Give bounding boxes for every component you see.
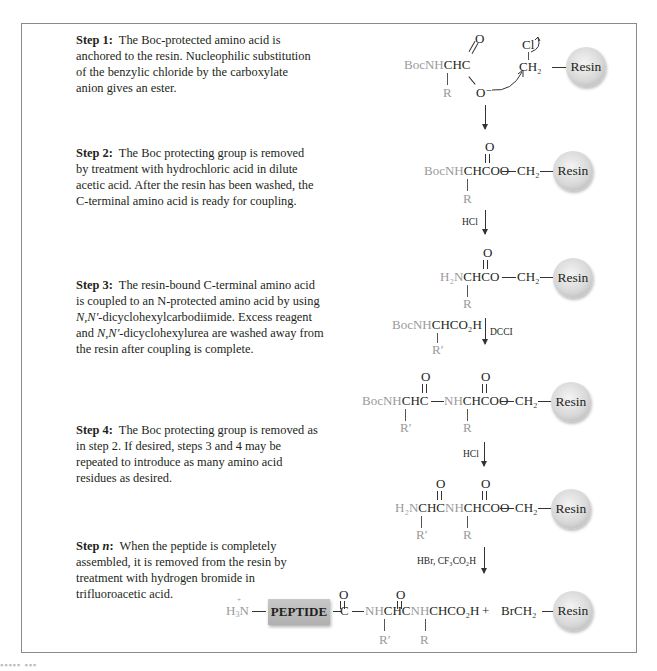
double-bond xyxy=(397,601,402,609)
r-prime-group: R′ xyxy=(400,421,412,435)
step-n-text: Step n: When the peptide is completely a… xyxy=(76,538,316,602)
bond xyxy=(500,401,514,402)
figure-caption-fragment: ▪▪▪▪▪ ▪▪▪ xyxy=(0,660,37,670)
bond xyxy=(538,401,552,402)
ch2: CH₂ xyxy=(515,394,538,408)
reaction-arrow-icon xyxy=(484,547,485,573)
resin-bead: Resin xyxy=(566,47,606,87)
carbonyl-o: O xyxy=(339,588,348,602)
r-group: R xyxy=(463,528,472,542)
ch2: CH₂ xyxy=(519,60,542,74)
carbonyl-o: O xyxy=(483,246,492,260)
resin-bead: Resin xyxy=(553,591,593,631)
ch2: CH₂ xyxy=(517,270,540,284)
second-residue: NHCHCOO xyxy=(444,394,508,408)
double-bond xyxy=(437,491,442,500)
step-4-text: Step 4: The Boc protecting group is remo… xyxy=(76,422,326,486)
ammonium-terminus: H3N xyxy=(226,604,249,618)
reagent-hbr-tfa: HBr, CF₃CO₂H xyxy=(417,556,476,566)
step-2-text: Step 2: The Boc protecting group is remo… xyxy=(76,145,316,209)
resin-bead: Resin xyxy=(551,382,591,422)
r-group: R xyxy=(420,633,429,647)
bond xyxy=(538,508,552,509)
bond xyxy=(447,73,448,85)
reaction-arrow-icon xyxy=(485,105,486,129)
r-prime-group: R′ xyxy=(416,528,428,542)
carbonyl-o: O xyxy=(485,140,494,154)
bond xyxy=(252,611,266,612)
boc-aa-formula: BocNHCHCO₂H xyxy=(392,318,482,332)
double-bond xyxy=(482,384,487,393)
bond xyxy=(540,171,554,172)
ch2: CH₂ xyxy=(515,501,538,515)
double-bond xyxy=(482,491,487,500)
bond xyxy=(467,179,468,191)
r-group: R xyxy=(463,297,472,311)
r-group: R xyxy=(463,192,472,206)
bond xyxy=(431,401,444,402)
double-bond xyxy=(485,154,490,163)
bond xyxy=(425,619,426,631)
bond xyxy=(502,277,516,278)
step-1-text: Step 1: The Boc-protected amino acid is … xyxy=(76,32,316,96)
bond xyxy=(384,619,385,631)
carbonyl-o: O xyxy=(481,477,490,491)
peptide-box: PEPTIDE xyxy=(268,599,330,625)
reagent-dcci: DCCI xyxy=(490,327,513,337)
double-bond xyxy=(422,384,427,393)
boc-nh-chc: BocNHCHC xyxy=(404,58,470,72)
ester-chain: BocNHCHCOO xyxy=(424,164,509,178)
reaction-arrow-icon xyxy=(485,318,486,344)
carbonyl-o: O xyxy=(421,370,430,384)
plus-sign: + xyxy=(482,604,489,618)
reagent-hcl-2: HCl xyxy=(463,449,479,459)
r-prime-group: R′ xyxy=(432,343,444,357)
r-group: R xyxy=(443,86,452,100)
r-prime-group: R′ xyxy=(379,633,391,647)
ch2: CH₂ xyxy=(517,164,540,178)
bond xyxy=(502,171,516,172)
r-group: R xyxy=(463,421,472,435)
boc-dipeptide-chain: BocNHCHC xyxy=(362,394,428,408)
resin-bead: Resin xyxy=(553,258,593,298)
bond xyxy=(552,67,566,68)
bond xyxy=(540,277,554,278)
resin-bead: Resin xyxy=(551,489,591,529)
reagent-hcl: HCl xyxy=(462,217,478,227)
bond xyxy=(500,508,514,509)
carbonyl-o: O xyxy=(396,588,405,602)
leaving-arrow-icon xyxy=(528,34,546,56)
carbonyl-c: C xyxy=(340,604,349,618)
step-3-text: Step 3: The resin-bound C-terminal amino… xyxy=(76,277,326,357)
reaction-arrow-icon xyxy=(484,442,485,466)
double-bond xyxy=(483,260,488,269)
product-peptide-chain: NHCHCNHCHCO₂H xyxy=(365,604,479,618)
benzyl-bromide: BrCH₂ xyxy=(501,604,537,618)
carbonyl-o: O xyxy=(481,370,490,384)
amine-dipeptide-chain: H₂NCHCNHCHCOO xyxy=(395,501,509,515)
resin-bead: Resin xyxy=(553,151,593,191)
carbonyl-o: O xyxy=(436,477,445,491)
reaction-arrow-icon xyxy=(485,210,486,234)
bond xyxy=(352,611,364,612)
amine-chain: H₂NCHCO xyxy=(440,270,499,284)
